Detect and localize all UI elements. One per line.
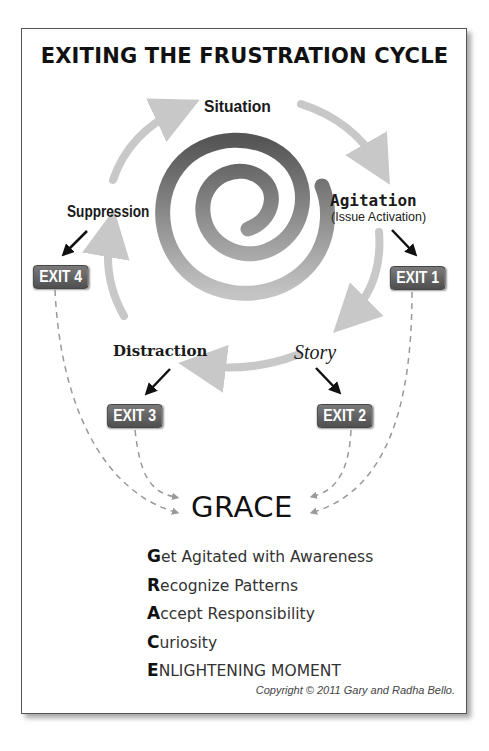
dash-exit2-to-grace: [314, 430, 351, 496]
arrow-situation-to-agitation: [301, 104, 378, 164]
dash-exit1-to-grace: [314, 292, 412, 512]
dash-exit3-to-grace: [135, 430, 175, 497]
stage-agitation: Agitation: [330, 191, 417, 210]
acronym-item-g: Get Agitated with Awareness: [147, 542, 373, 571]
grace-destination: GRACE: [191, 490, 293, 524]
exit-1-badge: EXIT 1: [390, 266, 445, 290]
exit-4-badge: EXIT 4: [33, 265, 88, 289]
arrow-story-to-distraction: [202, 355, 297, 368]
acronym-item-e: ENLIGHTENING MOMENT: [147, 656, 373, 685]
stage-story: Story: [294, 341, 336, 364]
arrow-to-exit2: [316, 368, 337, 390]
arrow-distraction-to-suppression: [108, 233, 124, 316]
stage-agitation-sublabel: (Issue Activation): [331, 210, 426, 224]
grace-acronym-list: Get Agitated with Awareness Recognize Pa…: [147, 542, 373, 685]
exit-2-badge: EXIT 2: [317, 404, 372, 428]
acronym-item-a: Accept Responsibility: [147, 599, 373, 628]
stage-distraction: Distraction: [113, 342, 207, 360]
stage-situation: Situation: [204, 97, 271, 117]
arrow-agitation-to-story: [350, 232, 379, 316]
dashed-paths: [55, 290, 412, 512]
acronym-item-r: Recognize Patterns: [147, 571, 373, 600]
arrow-to-exit3: [149, 369, 170, 391]
exit-3-badge: EXIT 3: [107, 404, 162, 428]
arrow-to-exit4: [66, 231, 87, 252]
spiral-icon: [163, 140, 328, 293]
dash-exit4-to-grace: [55, 290, 175, 512]
stage-suppression: Suppression: [67, 203, 149, 221]
acronym-item-c: Curiosity: [147, 628, 373, 657]
arrow-to-exit1: [392, 230, 413, 252]
copyright-notice: Copyright © 2011 Gary and Radha Bello.: [256, 684, 455, 696]
